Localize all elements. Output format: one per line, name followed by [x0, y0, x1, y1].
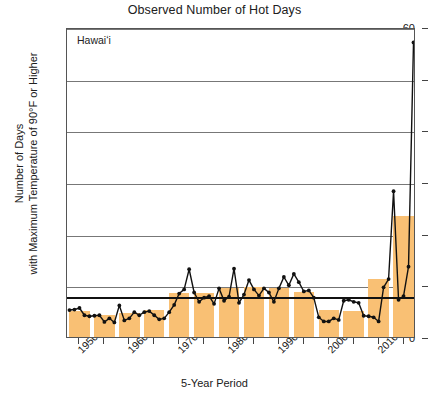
- data-point-1953: [83, 313, 87, 317]
- series-polyline: [69, 42, 413, 322]
- data-point-2000: [317, 315, 321, 319]
- data-point-2011: [372, 315, 376, 319]
- panel-label: Hawaiʻi: [77, 34, 111, 46]
- data-point-1989: [262, 286, 266, 290]
- data-point-1957: [102, 320, 106, 324]
- data-point-1958: [107, 316, 111, 320]
- data-point-1991: [272, 300, 276, 304]
- data-point-2019: [412, 41, 415, 45]
- reference-line: [67, 297, 414, 299]
- data-point-2018: [407, 265, 411, 269]
- data-point-1950: [68, 308, 72, 312]
- data-point-1997: [302, 290, 306, 294]
- y-axis-label-line2: with Maximum Temperature of 90°F or High…: [26, 53, 38, 275]
- y-tick-mark-60: [422, 28, 428, 29]
- data-point-2014: [387, 277, 391, 281]
- data-point-1976: [197, 300, 201, 304]
- data-point-2004: [337, 318, 341, 322]
- x-tick-mark-1985–89: [253, 338, 254, 344]
- data-point-2002: [327, 320, 331, 324]
- y-tick-mark-30: [422, 183, 428, 184]
- data-point-1975: [192, 291, 196, 295]
- data-point-2003: [332, 316, 336, 320]
- data-point-1981: [222, 299, 226, 303]
- data-point-2012: [377, 320, 381, 324]
- data-point-1960: [117, 304, 121, 308]
- data-point-1972: [177, 292, 181, 296]
- data-point-1968: [157, 317, 161, 321]
- data-point-1966: [147, 309, 151, 313]
- data-point-1970: [167, 310, 171, 314]
- data-point-1995: [292, 272, 296, 276]
- data-point-1984: [237, 301, 241, 305]
- data-point-1990: [267, 291, 271, 295]
- data-point-1959: [112, 321, 116, 325]
- data-point-1998: [307, 289, 311, 293]
- y-axis: Number of Days with Maximum Temperature …: [0, 0, 66, 406]
- data-point-1967: [152, 313, 156, 317]
- data-point-1964: [137, 313, 141, 317]
- y-tick-mark-50: [422, 80, 428, 81]
- x-tick-mark-1995–99: [303, 338, 304, 344]
- data-point-1965: [142, 310, 146, 314]
- y-axis-label: Number of Days with Maximum Temperature …: [13, 34, 40, 294]
- data-point-2007: [352, 300, 356, 304]
- data-point-1969: [162, 316, 166, 320]
- data-point-1986: [247, 278, 251, 282]
- y-tick-mark-20: [422, 235, 428, 236]
- y-tick-mark-0: [422, 338, 428, 339]
- hot-days-chart-figure: Observed Number of Hot Days Number of Da…: [0, 0, 429, 406]
- data-point-2010: [367, 314, 371, 318]
- data-point-1952: [78, 306, 82, 310]
- data-point-1983: [232, 267, 236, 271]
- data-point-1994: [287, 283, 291, 287]
- x-tick-mark-1955–59: [103, 338, 104, 344]
- x-tick-mark-2015–19: [403, 338, 404, 344]
- y-tick-mark-40: [422, 131, 428, 132]
- data-point-2013: [382, 285, 386, 289]
- data-point-2009: [362, 314, 366, 318]
- annual-series-line: [67, 29, 415, 338]
- data-point-2015: [392, 189, 396, 193]
- data-point-1955: [93, 314, 97, 318]
- data-point-1974: [187, 267, 191, 271]
- data-point-1954: [88, 314, 92, 318]
- data-point-1979: [212, 302, 216, 306]
- y-axis-label-line1: Number of Days: [13, 124, 25, 203]
- data-point-1962: [127, 316, 131, 320]
- data-point-1992: [277, 286, 281, 290]
- data-point-1996: [297, 280, 301, 284]
- plot-area: Hawaiʻi: [66, 28, 415, 338]
- data-point-1987: [252, 288, 256, 292]
- x-tick-mark-2005–09: [353, 338, 354, 344]
- data-point-1980: [217, 286, 221, 290]
- x-tick-mark-1975–79: [203, 338, 204, 344]
- data-point-1951: [73, 308, 77, 312]
- data-point-1973: [182, 288, 186, 292]
- data-point-1963: [132, 310, 136, 314]
- x-axis-label: 5-Year Period: [0, 377, 429, 389]
- y-tick-mark-10: [422, 286, 428, 287]
- series-point-group: [68, 41, 415, 325]
- data-point-2005: [342, 299, 346, 303]
- data-point-2008: [357, 301, 361, 305]
- x-tick-mark-1965–69: [153, 338, 154, 344]
- data-point-1956: [98, 313, 102, 317]
- data-point-2001: [322, 320, 326, 324]
- data-point-1993: [282, 275, 286, 279]
- data-point-1971: [172, 303, 176, 307]
- data-point-1961: [122, 319, 126, 323]
